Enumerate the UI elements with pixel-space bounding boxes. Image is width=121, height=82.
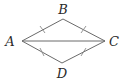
vertex-label-b: B <box>57 2 68 17</box>
vertex-label-d: D <box>56 66 68 81</box>
edge-bc <box>63 19 105 41</box>
tick-mark-cd <box>81 48 86 56</box>
vertex-label-a: A <box>4 34 14 49</box>
rhombus-diagram: A B C D <box>0 0 121 82</box>
vertex-label-c: C <box>109 34 119 49</box>
tick-mark-da <box>40 48 44 56</box>
tick-mark-bc <box>81 26 86 33</box>
